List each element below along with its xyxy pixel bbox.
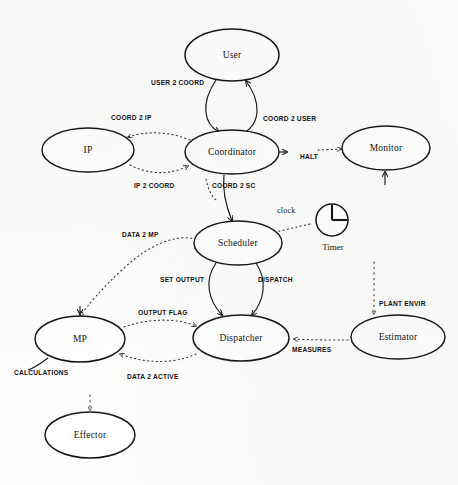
edge-dispatch bbox=[252, 263, 263, 315]
edge-data-2-active bbox=[120, 354, 196, 362]
edge-label-clock: clock bbox=[277, 206, 296, 215]
node-coordinator-label: Coordinator bbox=[208, 147, 257, 157]
edge-label-coord-2-sc: COORD 2 SC bbox=[212, 182, 256, 189]
edge-clock bbox=[272, 224, 310, 233]
node-mp-label: MP bbox=[73, 334, 87, 344]
node-user-label: User bbox=[223, 50, 242, 60]
edge-label-coord-2-user: COORD 2 USER bbox=[263, 115, 316, 122]
edge-label-coord-2-ip: COORD 2 IP bbox=[111, 114, 152, 121]
edge-coord-2-ip bbox=[128, 133, 190, 140]
edge-user-2-coord bbox=[206, 80, 219, 132]
clock-icon-label: Timer bbox=[322, 242, 344, 252]
edge-label-halt: HALT bbox=[300, 153, 318, 160]
edge-label-ip-2-coord: IP 2 COORD bbox=[134, 182, 175, 189]
node-estimator-label: Estimator bbox=[379, 332, 418, 342]
edge-halt-dotted bbox=[318, 149, 341, 150]
node-scheduler-label: Scheduler bbox=[218, 238, 258, 248]
dataflow-diagram: User IP Coordinator Monitor Scheduler MP… bbox=[0, 0, 458, 485]
edge-label-plant-envir: PLANT ENVIR bbox=[379, 300, 426, 307]
edge-label-measures: MEASURES bbox=[292, 346, 332, 353]
edge-ip-2-coord bbox=[130, 165, 188, 173]
diagram-canvas: User IP Coordinator Monitor Scheduler MP… bbox=[0, 0, 458, 485]
edge-label-data-2-active: DATA 2 ACTIVE bbox=[127, 373, 179, 380]
node-effector-label: Effector bbox=[74, 430, 107, 440]
edge-set-output bbox=[209, 263, 222, 315]
edge-label-data-2-mp: DATA 2 MP bbox=[122, 231, 159, 238]
edge-label-set-output: SET OUTPUT bbox=[160, 276, 204, 283]
edge-label-user-2-coord: USER 2 COORD bbox=[151, 79, 204, 86]
edge-label-dispatch: DISPATCH bbox=[258, 276, 293, 283]
edge-output-flag bbox=[124, 320, 196, 327]
edge-label-output-flag: OUTPUT FLAG bbox=[138, 309, 188, 316]
node-ip-label: IP bbox=[84, 145, 93, 155]
clock-icon bbox=[316, 204, 348, 236]
edge-label-calculations: CALCULATIONS bbox=[14, 369, 69, 376]
node-monitor-label: Monitor bbox=[370, 143, 403, 153]
edge-measures bbox=[294, 339, 348, 340]
node-dispatcher-label: Dispatcher bbox=[219, 333, 263, 343]
edge-coord-2-user bbox=[244, 81, 257, 133]
